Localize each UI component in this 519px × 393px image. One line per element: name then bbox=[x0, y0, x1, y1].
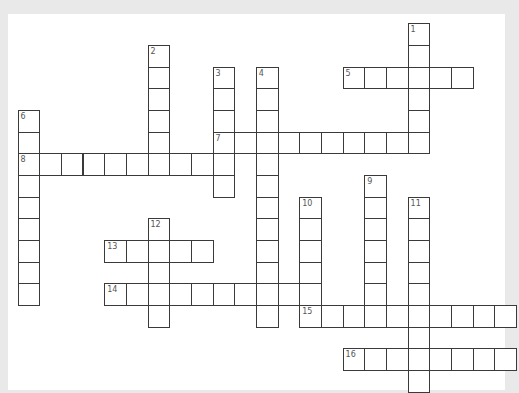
grid-cell[interactable] bbox=[18, 283, 41, 306]
grid-cell[interactable] bbox=[408, 305, 431, 328]
grid-cell[interactable] bbox=[429, 348, 452, 371]
grid-cell[interactable]: 10 bbox=[299, 197, 322, 220]
grid-cell[interactable] bbox=[386, 132, 409, 155]
grid-cell[interactable]: 12 bbox=[148, 218, 171, 241]
grid-cell[interactable] bbox=[148, 153, 171, 176]
grid-cell[interactable] bbox=[408, 45, 431, 68]
grid-cell[interactable] bbox=[169, 283, 192, 306]
grid-cell[interactable] bbox=[256, 218, 279, 241]
grid-cell[interactable] bbox=[386, 67, 409, 90]
grid-cell[interactable] bbox=[213, 283, 236, 306]
grid-cell[interactable] bbox=[408, 327, 431, 350]
grid-cell[interactable] bbox=[18, 197, 41, 220]
grid-cell[interactable] bbox=[321, 305, 344, 328]
grid-cell[interactable] bbox=[256, 88, 279, 111]
grid-cell[interactable] bbox=[408, 110, 431, 133]
grid-cell[interactable]: 13 bbox=[104, 240, 127, 263]
grid-cell[interactable] bbox=[451, 67, 474, 90]
grid-cell[interactable]: 5 bbox=[343, 67, 366, 90]
grid-cell[interactable]: 6 bbox=[18, 110, 41, 133]
grid-cell[interactable] bbox=[83, 153, 106, 176]
grid-cell[interactable] bbox=[364, 348, 387, 371]
grid-cell[interactable] bbox=[213, 175, 236, 198]
grid-cell[interactable]: 15 bbox=[299, 305, 322, 328]
grid-cell[interactable] bbox=[494, 348, 517, 371]
grid-cell[interactable] bbox=[148, 67, 171, 90]
grid-cell[interactable] bbox=[386, 348, 409, 371]
grid-cell[interactable]: 1 bbox=[408, 23, 431, 46]
grid-cell[interactable] bbox=[364, 197, 387, 220]
grid-cell[interactable] bbox=[148, 88, 171, 111]
grid-cell[interactable] bbox=[408, 67, 431, 90]
grid-cell[interactable] bbox=[321, 132, 344, 155]
grid-cell[interactable] bbox=[343, 132, 366, 155]
grid-cell[interactable] bbox=[256, 283, 279, 306]
grid-cell[interactable]: 11 bbox=[408, 197, 431, 220]
grid-cell[interactable] bbox=[278, 283, 301, 306]
grid-cell[interactable]: 16 bbox=[343, 348, 366, 371]
grid-cell[interactable] bbox=[364, 67, 387, 90]
grid-cell[interactable] bbox=[408, 370, 431, 393]
grid-cell[interactable] bbox=[148, 305, 171, 328]
grid-cell[interactable] bbox=[256, 110, 279, 133]
grid-cell[interactable] bbox=[191, 240, 214, 263]
grid-cell[interactable] bbox=[473, 348, 496, 371]
grid-cell[interactable] bbox=[364, 305, 387, 328]
grid-cell[interactable] bbox=[148, 262, 171, 285]
grid-cell[interactable] bbox=[408, 240, 431, 263]
grid-cell[interactable] bbox=[364, 283, 387, 306]
grid-cell[interactable] bbox=[234, 283, 257, 306]
grid-cell[interactable] bbox=[451, 305, 474, 328]
grid-cell[interactable] bbox=[169, 240, 192, 263]
grid-cell[interactable] bbox=[148, 283, 171, 306]
grid-cell[interactable] bbox=[364, 218, 387, 241]
grid-cell[interactable] bbox=[386, 305, 409, 328]
grid-cell[interactable] bbox=[278, 132, 301, 155]
grid-cell[interactable] bbox=[126, 240, 149, 263]
grid-cell[interactable]: 7 bbox=[213, 132, 236, 155]
grid-cell[interactable] bbox=[169, 153, 192, 176]
grid-cell[interactable] bbox=[191, 283, 214, 306]
grid-cell[interactable] bbox=[299, 218, 322, 241]
grid-cell[interactable] bbox=[408, 283, 431, 306]
grid-cell[interactable] bbox=[18, 240, 41, 263]
grid-cell[interactable] bbox=[104, 153, 127, 176]
grid-cell[interactable] bbox=[408, 348, 431, 371]
grid-cell[interactable] bbox=[18, 218, 41, 241]
grid-cell[interactable] bbox=[364, 132, 387, 155]
grid-cell[interactable] bbox=[61, 153, 84, 176]
grid-cell[interactable] bbox=[148, 110, 171, 133]
grid-cell[interactable] bbox=[39, 153, 62, 176]
grid-cell[interactable] bbox=[256, 132, 279, 155]
grid-cell[interactable] bbox=[299, 283, 322, 306]
grid-cell[interactable]: 8 bbox=[18, 153, 41, 176]
grid-cell[interactable] bbox=[451, 348, 474, 371]
grid-cell[interactable]: 4 bbox=[256, 67, 279, 90]
grid-cell[interactable] bbox=[148, 132, 171, 155]
grid-cell[interactable] bbox=[213, 88, 236, 111]
grid-cell[interactable] bbox=[18, 175, 41, 198]
grid-cell[interactable] bbox=[256, 153, 279, 176]
grid-cell[interactable] bbox=[473, 305, 496, 328]
grid-cell[interactable] bbox=[256, 197, 279, 220]
grid-cell[interactable] bbox=[364, 262, 387, 285]
grid-cell[interactable] bbox=[191, 153, 214, 176]
grid-cell[interactable] bbox=[494, 305, 517, 328]
grid-cell[interactable]: 9 bbox=[364, 175, 387, 198]
grid-cell[interactable] bbox=[256, 240, 279, 263]
grid-cell[interactable] bbox=[256, 262, 279, 285]
grid-cell[interactable] bbox=[18, 132, 41, 155]
grid-cell[interactable] bbox=[213, 110, 236, 133]
grid-cell[interactable] bbox=[429, 305, 452, 328]
grid-cell[interactable] bbox=[408, 262, 431, 285]
grid-cell[interactable]: 14 bbox=[104, 283, 127, 306]
grid-cell[interactable] bbox=[126, 283, 149, 306]
grid-cell[interactable] bbox=[126, 153, 149, 176]
grid-cell[interactable]: 3 bbox=[213, 67, 236, 90]
grid-cell[interactable] bbox=[234, 132, 257, 155]
grid-cell[interactable] bbox=[213, 153, 236, 176]
grid-cell[interactable] bbox=[299, 132, 322, 155]
grid-cell[interactable] bbox=[18, 262, 41, 285]
grid-cell[interactable] bbox=[429, 67, 452, 90]
grid-cell[interactable] bbox=[256, 305, 279, 328]
